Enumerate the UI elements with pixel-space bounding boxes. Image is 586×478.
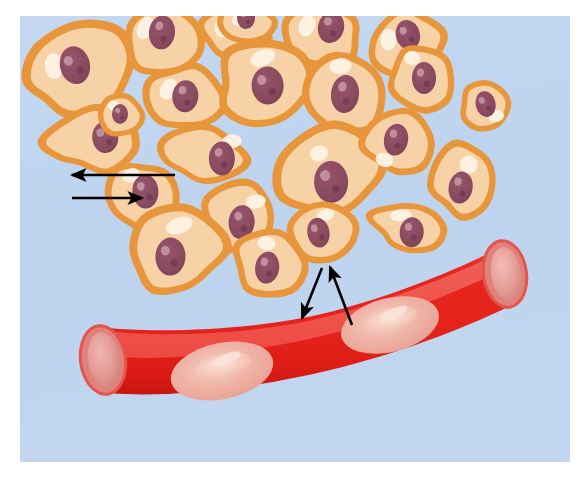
tissue-cell <box>391 49 451 111</box>
nucleus-highlight-spot <box>115 108 120 113</box>
cell-highlight <box>404 51 420 65</box>
illustration-stage: Tissue cells and blood capillary exchang… <box>0 0 586 478</box>
nucleolus <box>246 20 250 24</box>
cell-nucleus <box>412 62 436 94</box>
tissue-cell <box>101 96 142 133</box>
nucleus-highlight-spot <box>417 68 424 76</box>
nucleolus <box>120 116 124 120</box>
nucleolus <box>424 81 430 87</box>
tissue-capillary-figure: Tissue cells and blood capillary exchang… <box>0 0 586 478</box>
cell-nucleus <box>112 104 128 124</box>
